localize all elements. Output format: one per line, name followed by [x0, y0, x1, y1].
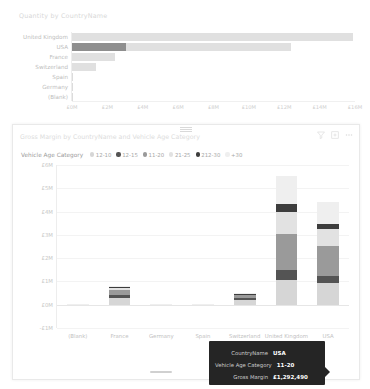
- bottom-chart-y-tick-label: £2M: [41, 255, 53, 261]
- top-chart-x-tick-label: £14M: [312, 104, 326, 110]
- bottom-chart-bar-segment[interactable]: [234, 300, 256, 305]
- bottom-chart-column-group[interactable]: Spain: [192, 165, 214, 328]
- bottom-chart-bar-segment[interactable]: [276, 204, 298, 212]
- bottom-chart-bar-segment[interactable]: [276, 280, 298, 304]
- top-chart-bar-row[interactable]: France: [72, 52, 355, 62]
- top-chart-category-label: Germany: [42, 84, 68, 90]
- legend-item[interactable]: 11-20: [143, 152, 164, 158]
- bottom-chart-y-tick-label: £4M: [41, 209, 53, 215]
- legend-item[interactable]: 12-15: [116, 152, 137, 158]
- bottom-chart-bar-segment[interactable]: [234, 293, 256, 294]
- scroll-indicator[interactable]: [150, 371, 172, 373]
- top-chart-x-tick-label: £16M: [348, 104, 362, 110]
- top-chart-bar-row[interactable]: Spain: [72, 72, 355, 82]
- bottom-chart-y-tick-label: £3M: [41, 232, 53, 238]
- bottom-chart-bar-segment[interactable]: [234, 294, 256, 295]
- bottom-chart-x-category-label: Germany: [138, 333, 184, 340]
- top-chart-bar-segment-highlight[interactable]: [72, 43, 126, 51]
- top-chart-bar-row[interactable]: USA: [72, 42, 355, 52]
- top-chart-category-label: (Blank): [48, 94, 68, 100]
- bottom-chart-bar-segment[interactable]: [317, 283, 339, 305]
- top-chart-x-tick-label: £0M: [66, 104, 77, 110]
- bottom-chart-column-group[interactable]: United Kingdom: [276, 165, 298, 328]
- legend-item-label: 11-20: [149, 152, 165, 158]
- bottom-chart-bar-segment[interactable]: [109, 290, 131, 295]
- legend-item[interactable]: 212-30: [196, 152, 221, 158]
- legend-item-label: 21-25: [175, 152, 191, 158]
- bottom-chart-bar-segment[interactable]: [109, 287, 131, 288]
- legend-item-label: 212-30: [201, 152, 220, 158]
- legend-color-swatch: [143, 152, 147, 156]
- bottom-chart-bar-segment[interactable]: [109, 288, 131, 290]
- bottom-chart-bar-segment[interactable]: [317, 246, 339, 276]
- top-chart-x-tick-label: £6M: [173, 104, 184, 110]
- bottom-chart-bar-segment[interactable]: [276, 234, 298, 270]
- bottom-chart-y-tick-label: £5M: [41, 185, 53, 191]
- bottom-chart-column-group[interactable]: France: [109, 165, 131, 328]
- bottom-chart-bar-segment[interactable]: [317, 224, 339, 229]
- top-chart-category-label: USA: [56, 44, 68, 50]
- bottom-chart-bar-segment[interactable]: [192, 304, 214, 305]
- bottom-chart-bar-segment[interactable]: [276, 270, 298, 280]
- top-chart-bar-segment[interactable]: [72, 93, 73, 101]
- top-chart-bar-row[interactable]: Switzerland: [72, 62, 355, 72]
- bottom-chart-column-group[interactable]: Switzerland: [234, 165, 256, 328]
- tooltip-key: Gross Margin: [215, 374, 268, 380]
- filter-icon[interactable]: [317, 131, 325, 139]
- tooltip-key: Vehicle Age Category: [215, 362, 272, 368]
- tooltip-value: USA: [273, 350, 319, 356]
- bottom-chart-bar-segment[interactable]: [317, 276, 339, 283]
- bottom-chart-x-category-label: Switzerland: [222, 333, 268, 340]
- tooltip-row: Gross Margin£1,292,490: [215, 371, 319, 382]
- legend-item[interactable]: 21-25: [169, 152, 190, 158]
- top-chart-bar-segment[interactable]: [72, 73, 73, 81]
- visual-header-icons: [317, 131, 353, 139]
- bottom-chart-x-category-label: France: [97, 333, 143, 340]
- bottom-chart-y-tick-label: -£1M: [40, 325, 53, 331]
- legend-item[interactable]: 12-10: [90, 152, 111, 158]
- bottom-chart-bar-segment[interactable]: [109, 295, 131, 297]
- bottom-chart-gridline: [57, 328, 349, 329]
- top-chart-bar-segment[interactable]: [72, 33, 353, 41]
- legend-item[interactable]: +30: [225, 152, 242, 158]
- top-chart-x-tick-label: £12M: [277, 104, 291, 110]
- legend-item-label: 12-15: [122, 152, 138, 158]
- bottom-chart-bar-segment[interactable]: [276, 212, 298, 234]
- bottom-chart-bar-segment[interactable]: [276, 176, 298, 204]
- top-chart-bar-segment[interactable]: [72, 63, 96, 71]
- top-chart-bar-row[interactable]: United Kingdom: [72, 32, 355, 42]
- tooltip-row: Vehicle Age Category11-20: [215, 359, 319, 370]
- bottom-chart-column-group[interactable]: (Blank): [67, 165, 89, 328]
- bottom-chart-y-axis-line: [56, 165, 57, 328]
- bottom-chart-column-group[interactable]: Germany: [150, 165, 172, 328]
- quantity-by-country-visual[interactable]: Quantity by CountryName United KingdomUS…: [0, 0, 370, 120]
- top-chart-bar-segment[interactable]: [126, 43, 291, 51]
- bottom-chart-bar-segment[interactable]: [317, 202, 339, 223]
- top-chart-bar-segment[interactable]: [72, 53, 115, 61]
- bottom-chart-bar-segment[interactable]: [317, 229, 339, 246]
- bottom-chart-bar-segment[interactable]: [109, 298, 131, 305]
- gross-margin-visual[interactable]: Gross Margin by CountryName and Vehicle …: [12, 124, 360, 380]
- legend-item-label: 12-10: [96, 152, 112, 158]
- legend-color-swatch: [196, 152, 200, 156]
- legend-color-swatch: [225, 152, 229, 156]
- top-chart-category-label: United Kingdom: [23, 34, 68, 40]
- bottom-chart-bar-segment[interactable]: [67, 304, 89, 305]
- legend[interactable]: Vehicle Age Category 12-1012-1511-2021-2…: [21, 149, 353, 160]
- focus-mode-icon[interactable]: [331, 131, 339, 139]
- bottom-chart-title: Gross Margin by CountryName and Vehicle …: [20, 133, 200, 140]
- legend-item-label: +30: [231, 152, 242, 158]
- bottom-chart-bar-segment[interactable]: [150, 304, 172, 305]
- legend-color-swatch: [116, 152, 120, 156]
- bottom-chart-bar-segment[interactable]: [234, 298, 256, 299]
- top-chart-x-tick-label: £10M: [242, 104, 256, 110]
- tooltip-value: £1,292,490: [273, 374, 319, 380]
- top-chart-title: Quantity by CountryName: [19, 12, 107, 20]
- more-options-icon[interactable]: [345, 131, 353, 139]
- top-chart-bar-row[interactable]: Germany: [72, 82, 355, 92]
- bottom-chart-column-group[interactable]: USA: [317, 165, 339, 328]
- top-chart-bar-segment[interactable]: [72, 83, 73, 91]
- bottom-chart-bar-segment[interactable]: [109, 286, 131, 287]
- legend-color-swatch: [90, 152, 94, 156]
- bottom-chart-bar-segment[interactable]: [234, 295, 256, 298]
